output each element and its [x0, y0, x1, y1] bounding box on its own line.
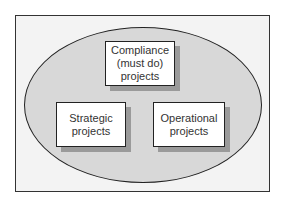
- compliance-line-1: Compliance: [111, 44, 169, 57]
- strategic-line-1: Strategic: [69, 112, 112, 125]
- strategic-projects-box: Strategic projects: [56, 102, 126, 147]
- operational-projects-box: Operational projects: [153, 102, 225, 147]
- strategic-line-2: projects: [69, 125, 112, 138]
- operational-line-1: Operational: [161, 112, 218, 125]
- compliance-line-3: projects: [111, 70, 169, 83]
- compliance-line-2: (must do): [111, 57, 169, 70]
- compliance-projects-box: Compliance (must do) projects: [105, 41, 175, 86]
- operational-line-2: projects: [161, 125, 218, 138]
